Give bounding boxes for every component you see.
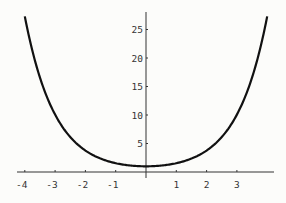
axes bbox=[17, 12, 274, 178]
y-tick-label: 10 bbox=[132, 110, 144, 121]
y-tick-label: 25 bbox=[132, 24, 143, 35]
y-tick-label: 5 bbox=[137, 138, 143, 149]
x-tick-label: 3 bbox=[234, 179, 240, 190]
x-tick-label: -4 bbox=[16, 179, 28, 190]
cosh-plot: -4-3-2-1123510152025 bbox=[0, 0, 286, 203]
y-tick-label: 20 bbox=[132, 53, 144, 64]
x-tick-label: -2 bbox=[77, 179, 88, 190]
y-tick-label: 15 bbox=[132, 81, 143, 92]
x-tick-label: 2 bbox=[204, 179, 210, 190]
x-tick-label: -1 bbox=[107, 179, 119, 190]
x-tick-label: 1 bbox=[173, 179, 179, 190]
x-tick-label: -3 bbox=[46, 179, 57, 190]
